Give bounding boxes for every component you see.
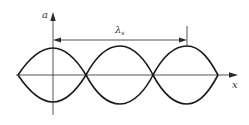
wavelength-subscript: s <box>121 29 124 36</box>
dimension-left-arrow-icon <box>53 38 61 43</box>
standing-wave-diagram: x a λs <box>0 0 249 125</box>
a-axis <box>50 12 55 115</box>
upper-envelope-curve <box>18 46 218 75</box>
x-axis <box>16 72 238 78</box>
dimension-right-arrow-icon <box>179 38 187 43</box>
wavelength-symbol: λ <box>114 24 121 35</box>
a-axis-arrow-icon <box>50 12 55 21</box>
lower-envelope-curve <box>18 75 218 104</box>
wavelength-label: λs <box>114 24 124 36</box>
x-axis-label: x <box>232 79 238 90</box>
x-axis-arrow-icon <box>229 72 238 78</box>
a-axis-label: a <box>42 9 48 20</box>
